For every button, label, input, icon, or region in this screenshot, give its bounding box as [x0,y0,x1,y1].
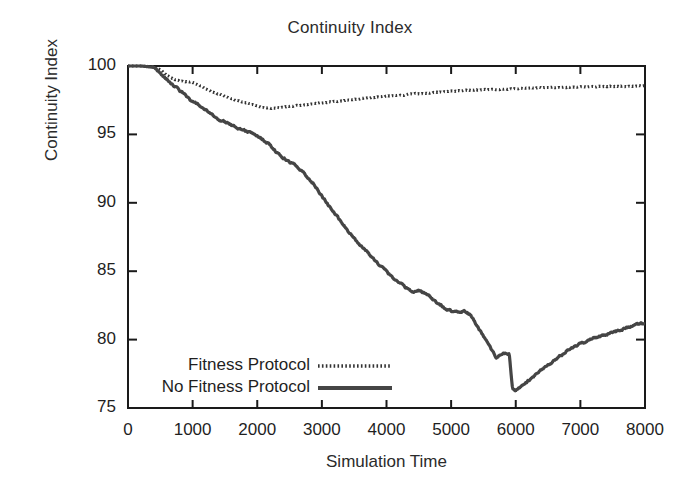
series-line-no-fitness-protocol [128,66,645,391]
legend-label-no-fitness-protocol: No Fitness Protocol [120,377,310,397]
legend-label-fitness-protocol: Fitness Protocol [120,355,310,375]
legend [318,366,392,388]
plot-canvas [0,0,700,498]
chart-figure: Continuity Index Continuity Index Simula… [0,0,700,498]
data-series-layer [128,66,645,391]
